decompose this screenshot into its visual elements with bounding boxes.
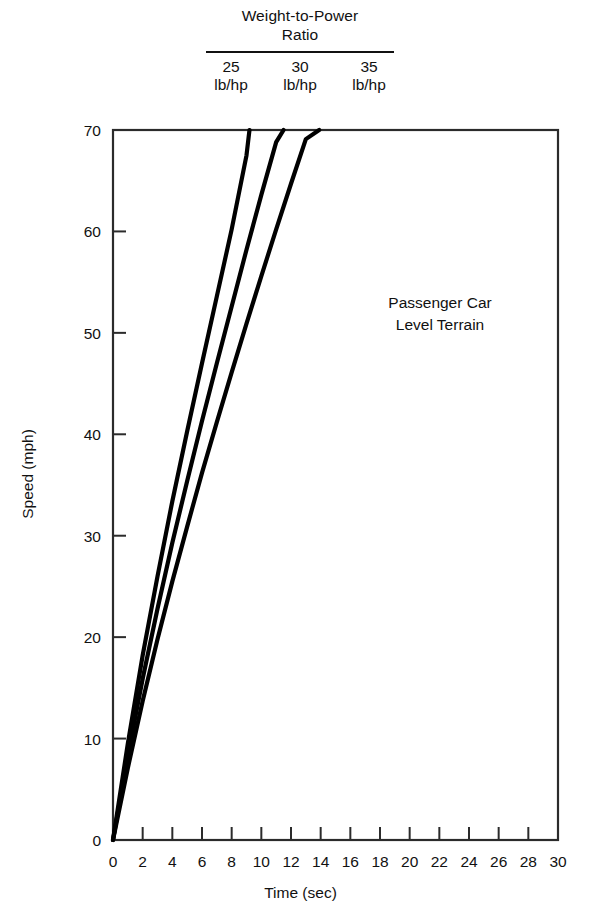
x-tick-label: 6: [198, 853, 207, 870]
x-tick-label: 14: [312, 853, 330, 870]
x-tick-label: 10: [253, 853, 271, 870]
x-tick-labels: 024681012141618202224262830: [109, 853, 567, 870]
annotation-line1: Passenger Car: [340, 292, 540, 314]
x-tick-label: 4: [168, 853, 177, 870]
y-tick-label: 50: [84, 325, 102, 342]
y-tick-label: 40: [84, 426, 102, 443]
annotation-line2: Level Terrain: [340, 314, 540, 336]
x-tick-label: 0: [109, 853, 118, 870]
chart-figure: Weight-to-Power Ratio 25 lb/hp 30 lb/hp …: [0, 0, 601, 918]
x-tick-label: 8: [227, 853, 236, 870]
y-tick-labels: 010203040506070: [84, 122, 102, 849]
x-tick-label: 20: [401, 853, 419, 870]
y-tick-label: 30: [84, 528, 102, 545]
x-tick-label: 12: [282, 853, 299, 870]
plot-annotation: Passenger Car Level Terrain: [340, 292, 540, 336]
data-curves: [113, 130, 319, 840]
x-tick-label: 26: [490, 853, 507, 870]
x-tick-label: 2: [138, 853, 147, 870]
plot-area: 010203040506070 024681012141618202224262…: [0, 0, 601, 918]
x-tick-label: 30: [549, 853, 567, 870]
x-tick-label: 22: [431, 853, 448, 870]
x-tick-label: 24: [460, 853, 478, 870]
plot-frame: [113, 130, 558, 840]
y-tick-label: 70: [84, 122, 102, 139]
x-tick-marks: [143, 827, 529, 840]
y-axis-title: Speed (mph): [19, 399, 37, 549]
curve-35-lb-hp: [113, 130, 319, 840]
y-tick-label: 0: [92, 832, 101, 849]
x-tick-label: 28: [520, 853, 537, 870]
y-tick-marks: [113, 231, 126, 738]
x-tick-label: 18: [371, 853, 388, 870]
y-tick-label: 60: [84, 223, 102, 240]
y-tick-label: 20: [84, 629, 102, 646]
x-axis-title: Time (sec): [0, 884, 601, 902]
y-tick-label: 10: [84, 731, 102, 748]
x-tick-label: 16: [342, 853, 359, 870]
